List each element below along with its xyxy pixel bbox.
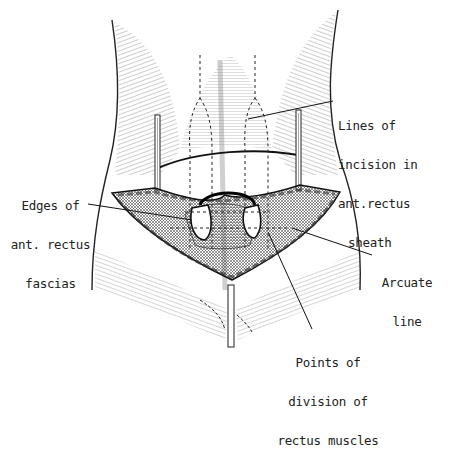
upper-abdomen-muscle <box>180 55 272 150</box>
label-line: ant. rectus <box>3 238 98 251</box>
label-line: division of <box>268 395 388 408</box>
label-line: line <box>372 315 442 328</box>
left-retractor <box>155 115 160 190</box>
right-retractor <box>296 110 301 190</box>
label-line: Points of <box>268 356 388 369</box>
label-line: incision in <box>338 158 417 171</box>
label-line: rectus muscles <box>268 434 388 447</box>
label-line: sheath <box>338 236 417 249</box>
right-flank-muscle <box>272 12 338 175</box>
label-line: ant.rectus <box>338 197 417 210</box>
label-line: fascias <box>3 277 98 290</box>
label-line: Lines of <box>338 119 417 132</box>
lower-retractor <box>228 285 234 347</box>
label-lines-of-incision: Lines of incision in ant.rectus sheath <box>338 93 417 262</box>
label-line: Edges of <box>3 199 98 212</box>
label-points-of-division: Points of division of rectus muscles <box>268 330 388 449</box>
label-arcuate-line: Arcuate line <box>372 250 442 341</box>
left-flank-muscle <box>114 22 180 175</box>
label-edges-of-fascias: Edges of ant. rectus fascias <box>3 173 98 303</box>
label-line: Arcuate <box>372 276 442 289</box>
